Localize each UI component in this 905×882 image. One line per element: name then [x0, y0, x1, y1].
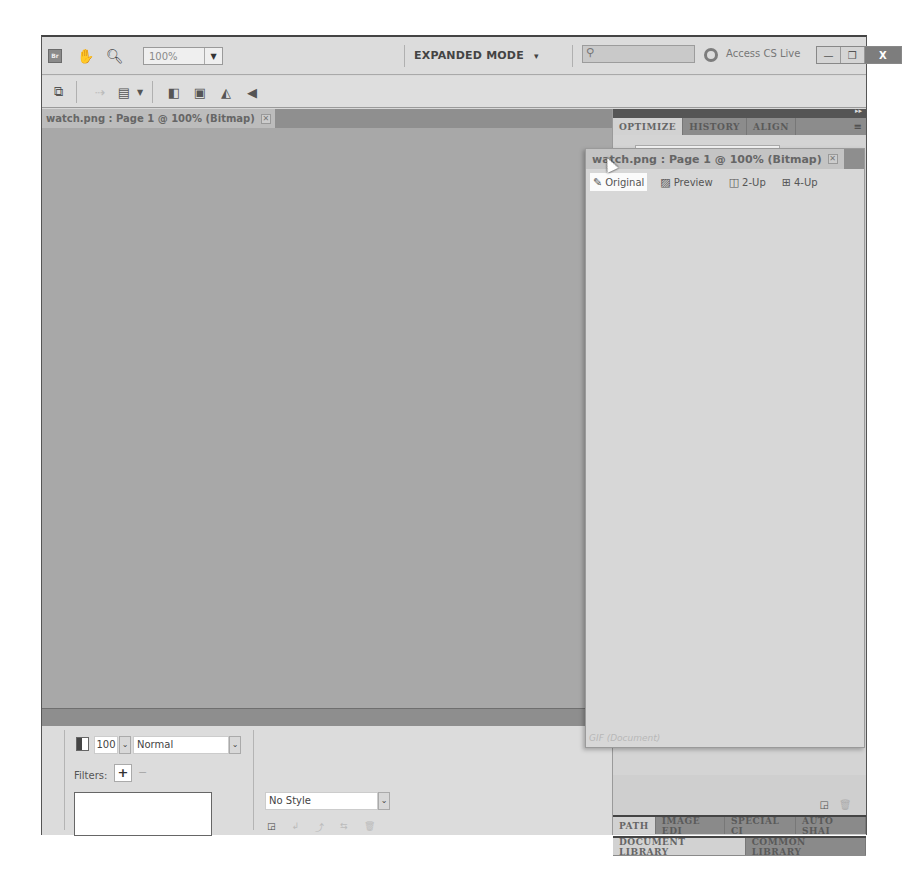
redefine-style-icon[interactable]: ↲	[292, 821, 300, 834]
delete-icon[interactable]: 🗑︎	[839, 799, 852, 810]
four-up-icon: ⊞	[782, 176, 791, 189]
bridge-logo-button[interactable]: Br	[48, 49, 62, 63]
view-4up-label: 4-Up	[794, 177, 818, 188]
remove-filter-button[interactable]: −	[138, 766, 147, 779]
align-icon[interactable]: ▤	[116, 84, 132, 100]
divider	[572, 45, 573, 67]
hand-tool-icon[interactable]: ✋	[75, 46, 95, 66]
floating-tab-bar[interactable]: watch.png : Page 1 @ 100% (Bitmap) ✕	[586, 149, 864, 169]
zoom-tool-icon[interactable]: 🔍︎	[105, 46, 125, 66]
divider	[152, 81, 153, 103]
rotate-right-icon[interactable]: ▣	[192, 84, 208, 100]
divider	[404, 45, 405, 67]
bottom-panel-tabs: DOCUMENT LIBRARY COMMON LIBRARY	[613, 836, 866, 856]
ungroup-icon[interactable]: ⇢	[92, 84, 108, 100]
document-tab[interactable]: watch.png : Page 1 @ 100% (Bitmap) ✕	[42, 109, 275, 128]
close-icon[interactable]: ✕	[828, 154, 838, 164]
tab-path[interactable]: PATH	[613, 817, 656, 834]
tab-auto-shapes[interactable]: AUTO SHAI	[796, 817, 866, 834]
workspace-mode-label: EXPANDED MODE	[414, 49, 524, 62]
blend-mode-select[interactable]: Normal	[133, 736, 229, 754]
app-bar: Br ✋ 🔍︎ 100% ▼ EXPANDED MODE ▾ ⚲ Access …	[42, 37, 866, 75]
tab-optimize[interactable]: OPTIMIZE	[613, 118, 683, 135]
window-controls: — ❐ X	[816, 46, 902, 64]
new-item-icon[interactable]: ◲	[820, 799, 829, 810]
filters-list[interactable]	[74, 792, 212, 836]
close-button[interactable]: X	[865, 47, 901, 63]
view-4up-button[interactable]: ⊞ 4-Up	[779, 173, 821, 191]
view-preview-label: Preview	[674, 177, 713, 188]
image-icon: ▨	[660, 176, 670, 189]
view-2up-label: 2-Up	[742, 177, 766, 188]
search-input[interactable]: ⚲	[582, 45, 695, 63]
divider	[253, 730, 254, 830]
opacity-icon	[76, 737, 89, 751]
document-tab-bar: watch.png : Page 1 @ 100% (Bitmap) ✕	[42, 109, 622, 128]
properties-panel: 100 ⌄ Normal ⌄ Filters: + − No Style ⌄ ◲…	[42, 726, 612, 835]
view-original-button[interactable]: ✎ Original	[590, 173, 647, 191]
tab-align[interactable]: ALIGN	[747, 118, 796, 135]
restore-button[interactable]: ❐	[841, 47, 865, 63]
tab-image-editing[interactable]: IMAGE EDI	[656, 817, 725, 834]
divider	[64, 730, 65, 830]
zoom-level-select[interactable]: 100% ▼	[143, 47, 223, 65]
group-objects-icon[interactable]: ⧉	[50, 84, 66, 100]
chevron-down-icon[interactable]: ⌄	[229, 736, 241, 754]
tab-special-characters[interactable]: SPECIAL CI	[725, 817, 796, 834]
status-text: GIF (Document)	[589, 733, 660, 743]
style-actions: ◲ ↲ ⤴ ⇆ 🗑︎	[267, 821, 375, 834]
floating-document-window[interactable]: watch.png : Page 1 @ 100% (Bitmap) ✕ ✎ O…	[585, 148, 865, 748]
pencil-icon: ✎	[593, 176, 602, 189]
tab-document-library[interactable]: DOCUMENT LIBRARY	[613, 838, 746, 855]
document-canvas[interactable]	[42, 128, 622, 708]
floating-document-tab-label: watch.png : Page 1 @ 100% (Bitmap)	[592, 153, 822, 166]
cs-live-icon[interactable]	[704, 48, 718, 62]
divider	[76, 81, 77, 103]
view-mode-buttons: ✎ Original ▨ Preview ◫ 2-Up ⊞ 4-Up	[590, 173, 821, 191]
top-panel-tabs: OPTIMIZE HISTORY ALIGN	[613, 118, 866, 135]
middle-panel-tabs: PATH IMAGE EDI SPECIAL CI AUTO SHAI	[613, 815, 866, 834]
panel-menu-icon[interactable]: ≡	[854, 121, 862, 132]
document-tab-label: watch.png : Page 1 @ 100% (Bitmap)	[46, 113, 255, 124]
cs-live-link[interactable]: Access CS Live	[726, 48, 800, 59]
rotate-icon[interactable]: ◧	[166, 84, 182, 100]
chevron-down-icon[interactable]: ▼	[132, 84, 148, 100]
tab-common-library[interactable]: COMMON LIBRARY	[746, 838, 866, 855]
search-icon: ⚲	[586, 46, 594, 59]
tab-history[interactable]: HISTORY	[683, 118, 747, 135]
panel-group-header: ▸▸	[613, 109, 866, 118]
chevron-down-icon: ▾	[534, 51, 539, 61]
break-link-icon[interactable]: ⤴	[315, 821, 324, 834]
modify-toolbar: ⧉ ⇢ ▤ ▼ ◧ ▣ ◭ ◀	[42, 76, 866, 108]
zoom-level-value: 100%	[144, 51, 204, 62]
opacity-input[interactable]: 100	[94, 736, 118, 754]
style-select[interactable]: No Style	[265, 792, 378, 810]
flip-horizontal-icon[interactable]: ◭	[218, 84, 234, 100]
view-original-label: Original	[605, 177, 644, 188]
properties-panel-header	[42, 708, 622, 726]
chevron-down-icon[interactable]: ⌄	[119, 736, 131, 754]
chevron-down-icon[interactable]: ▼	[204, 48, 222, 64]
delete-style-icon[interactable]: 🗑︎	[364, 821, 375, 834]
workspace-mode-switcher[interactable]: EXPANDED MODE ▾	[414, 49, 539, 62]
new-style-icon[interactable]: ◲	[267, 821, 276, 834]
filters-label: Filters:	[74, 770, 107, 781]
two-up-icon: ◫	[729, 176, 739, 189]
chevron-down-icon[interactable]: ⌄	[378, 792, 390, 810]
add-filter-button[interactable]: +	[114, 764, 132, 782]
view-2up-button[interactable]: ◫ 2-Up	[726, 173, 769, 191]
collapse-panels-icon[interactable]: ▸▸	[855, 107, 862, 115]
flip-vertical-icon[interactable]: ◀	[244, 84, 260, 100]
floating-document-tab[interactable]: watch.png : Page 1 @ 100% (Bitmap) ✕	[586, 149, 844, 169]
view-preview-button[interactable]: ▨ Preview	[657, 173, 715, 191]
panel-footer-actions: ◲ 🗑︎	[820, 799, 852, 810]
minimize-button[interactable]: —	[817, 47, 841, 63]
clear-overrides-icon[interactable]: ⇆	[340, 821, 348, 834]
close-icon[interactable]: ✕	[261, 114, 271, 124]
